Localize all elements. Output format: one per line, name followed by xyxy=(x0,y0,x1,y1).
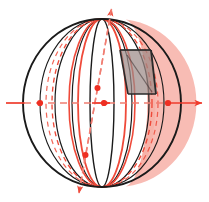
sphere-diagram xyxy=(0,0,209,202)
axis-dot-right xyxy=(165,100,171,106)
figure-container xyxy=(0,0,209,202)
diagonal-dot-upper xyxy=(95,85,101,91)
axis-dot-left xyxy=(37,100,43,106)
axis-dot-center xyxy=(101,100,107,106)
diagonal-dot-lower xyxy=(83,152,89,158)
